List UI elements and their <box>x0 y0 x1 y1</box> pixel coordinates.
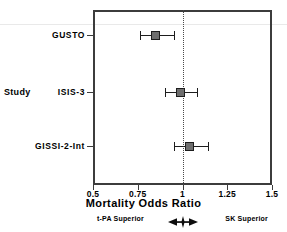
confidence-interval-cap-low <box>140 31 141 40</box>
point-estimate-marker <box>151 31 160 40</box>
direction-label-right: SK Superior <box>225 215 268 222</box>
y-axis-tick <box>87 146 93 147</box>
point-estimate-marker <box>176 88 185 97</box>
y-axis-title: Study <box>4 88 31 97</box>
direction-annotation: t-PA Superior SK Superior <box>93 214 272 226</box>
point-estimate-marker <box>185 142 194 151</box>
y-axis-label-isis-3: ISIS-3 <box>58 88 85 97</box>
confidence-interval-cap-high <box>208 142 209 151</box>
x-axis-title: Mortality Odds Ratio <box>0 198 287 209</box>
y-axis-tick <box>87 92 93 93</box>
reference-line-or-1 <box>183 10 184 185</box>
left-right-arrow-icon <box>168 214 198 226</box>
y-axis-label-gusto: GUSTO <box>52 31 85 40</box>
confidence-interval-cap-high <box>197 88 198 97</box>
confidence-interval-cap-low <box>174 142 175 151</box>
y-axis-label-gissi-2-int: GISSI-2-Int <box>35 142 85 151</box>
direction-label-left: t-PA Superior <box>97 215 144 222</box>
forest-plot-figure: Study GUSTOISIS-3GISSI-2-Int 0.50.7511.2… <box>0 0 287 232</box>
confidence-interval-cap-low <box>165 88 166 97</box>
y-axis-tick <box>87 35 93 36</box>
confidence-interval-cap-high <box>174 31 175 40</box>
